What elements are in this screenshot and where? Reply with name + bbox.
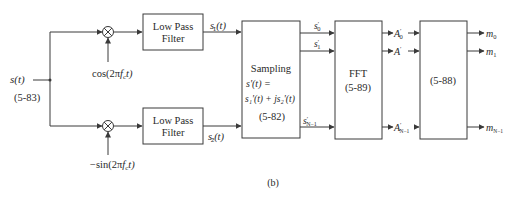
carrier-label-bottom: −sin(2πfct) [90,159,135,172]
sampling-title: Sampling [251,63,292,74]
block-diagram: s(t) (5-83) cos(2πfct) −sin(2πfct) Low P… [0,0,508,197]
filter-box [143,14,203,50]
filter-top-output-label: s′1(t) [210,20,227,33]
mixer-top: cos(2πfct) [92,27,142,82]
fft-output-n-label: A′N−1 [393,121,410,134]
decision-block: (5-88) m0 m1 mN−1 [420,21,503,139]
filter-label-line1: Low Pass [153,21,194,32]
input-equation-ref: (5-83) [14,92,41,104]
low-pass-filter-bottom: Low Pass Filter s′2(t) [143,108,241,144]
filter-label-line2: Filter [162,33,185,44]
filter-box [143,108,203,144]
sampling-output-n-label: s′N−1 [303,115,317,127]
filter-label-line1: Low Pass [153,115,194,126]
input-signal: s(t) (5-83) [10,32,102,126]
decision-output-n-label: mN−1 [486,122,503,134]
sampling-equation-line2: s₁'(t) + js₂'(t) [245,94,295,105]
mixer-bottom: −sin(2πfct) [90,121,142,173]
fft-equation-ref: (5-89) [345,82,372,94]
sampling-equation-line1: s'(t) = [246,78,271,90]
sampling-block: Sampling s'(t) = s₁'(t) + js₂'(t) (5-82)… [242,20,334,138]
sampling-equation-ref: (5-82) [259,111,286,123]
input-signal-label: s(t) [10,73,25,86]
filter-label-line2: Filter [162,127,185,138]
sampling-output-1-label: s′1 [314,38,320,50]
filter-bottom-output-label: s′2(t) [208,131,225,144]
fft-block: FFT (5-89) A′0 A′ A′N−1 [335,21,419,139]
decision-output-0-label: m0 [486,28,496,40]
decision-equation-ref: (5-88) [430,75,457,87]
sampling-output-0-label: s′0 [314,20,320,32]
fft-output-0-label: A′0 [393,27,403,40]
figure-caption: (b) [267,177,279,189]
fft-title: FFT [349,68,368,79]
carrier-label-top: cos(2πfct) [92,68,133,81]
decision-output-1-label: m1 [486,46,496,58]
fft-box [335,21,382,139]
low-pass-filter-top: Low Pass Filter s′1(t) [143,14,241,50]
fft-output-1-label: A′ [393,45,402,57]
